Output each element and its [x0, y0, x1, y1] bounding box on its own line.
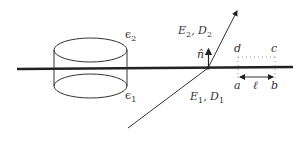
- corner-a-label: a: [234, 79, 241, 92]
- corner-c-label: c: [271, 42, 277, 55]
- field-1-label: E1, D1: [189, 90, 224, 105]
- epsilon-1-label: ϵ1: [125, 89, 136, 104]
- field-line-upper: [208, 11, 237, 68]
- field-2-label: E2, D2: [177, 24, 212, 39]
- corner-b-label: b: [271, 79, 278, 92]
- interface-diagram: ϵ2 ϵ1 n̂ E2, D2 E1, D1 d c a b ℓ: [0, 0, 305, 149]
- epsilon-2-label: ϵ2: [125, 28, 136, 43]
- interface-line: [17, 67, 293, 69]
- diagram-canvas: ϵ2 ϵ1 n̂ E2, D2 E1, D1 d c a b ℓ: [0, 0, 305, 149]
- length-label: ℓ: [253, 79, 258, 92]
- corner-d-label: d: [234, 42, 241, 55]
- normal-label: n̂: [197, 48, 204, 61]
